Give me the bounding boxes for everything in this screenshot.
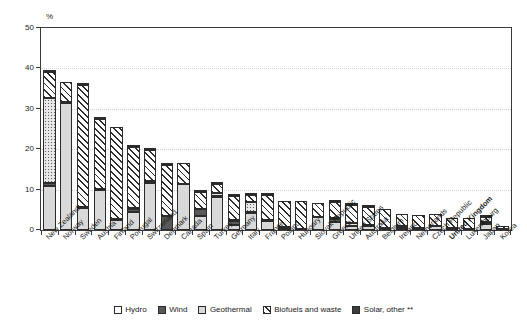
bar-segment: [261, 195, 273, 220]
bar-segment: [245, 193, 257, 195]
bar-slot: [159, 28, 176, 230]
legend-label: Geothermal: [210, 305, 252, 314]
legend-label: Biofuels and waste: [274, 305, 341, 314]
bar-slot: [410, 28, 427, 230]
chart-legend: HydroWindGeothermalBiofuels and wasteSol…: [0, 305, 527, 314]
bar-slot: [142, 28, 159, 230]
y-tick-label-20: 20: [2, 144, 34, 153]
bar-slot: [226, 28, 243, 230]
bar-segment: [228, 194, 240, 196]
bar-slot: [494, 28, 511, 230]
bar-slot: [125, 28, 142, 230]
bar-segment: [194, 192, 206, 209]
x-axis-category-labels: New ZealandNorwaySwedenAustriaFinlandPor…: [0, 233, 527, 297]
y-axis: 01020304050: [0, 27, 40, 231]
dark-square-swatch: [158, 306, 166, 314]
bar-segment: [228, 196, 240, 221]
bars-layer: [41, 28, 511, 230]
y-tick-label-10: 10: [2, 184, 34, 193]
y-tick-label-50: 50: [2, 23, 34, 32]
bar-segment: [127, 209, 139, 213]
legend-label: Solar, other **: [364, 305, 413, 314]
bar-segment: [245, 202, 257, 212]
bar-segment: [211, 193, 223, 196]
bar-slot: [209, 28, 226, 230]
bar-segment: [161, 163, 173, 165]
y-axis-unit-label: %: [46, 12, 53, 21]
bar-segment: [177, 163, 189, 184]
bar-segment: [77, 83, 89, 85]
renewables-share-stacked-bar-chart: % 01020304050 New ZealandNorwaySwedenAus…: [0, 0, 527, 329]
bar-slot: [192, 28, 209, 230]
y-tick-label-30: 30: [2, 103, 34, 112]
cropped-header-remnant: [0, 0, 527, 12]
bar-segment: [94, 119, 106, 189]
bar-segment: [211, 182, 223, 184]
bar-segment: [245, 195, 257, 202]
bar-segment: [94, 117, 106, 119]
bar-slot: [360, 28, 377, 230]
legend-item-hydro[interactable]: Hydro: [114, 305, 147, 314]
legend-item-biofuels-and-waste[interactable]: Biofuels and waste: [263, 305, 342, 314]
bar-slot: [108, 28, 125, 230]
bar-segment: [329, 200, 341, 202]
light-grey-square-swatch: [198, 306, 206, 314]
legend-label: Wind: [169, 305, 187, 314]
bar-slot: [326, 28, 343, 230]
y-tick-label-40: 40: [2, 63, 34, 72]
bar-segment: [261, 193, 273, 195]
bar-segment: [362, 205, 374, 207]
bar-slot: [310, 28, 327, 230]
bar-segment: [194, 190, 206, 192]
bar-segment: [127, 147, 139, 208]
legend-item-solar-other-[interactable]: Solar, other **: [352, 305, 413, 314]
bar-segment: [110, 127, 122, 219]
bar-slot: [91, 28, 108, 230]
bar-segment: [194, 209, 206, 216]
bar-segment: [211, 184, 223, 194]
bar-slot: [427, 28, 444, 230]
bar-segment: [43, 70, 55, 72]
bar-segment: [43, 183, 55, 186]
bar-segment: [144, 148, 156, 150]
bar-segment: [43, 98, 55, 182]
bar-slot: [259, 28, 276, 230]
bar-slot: [276, 28, 293, 230]
bar-slot: [377, 28, 394, 230]
open-square-swatch: [114, 306, 122, 314]
bar-segment: [312, 203, 324, 217]
bar-slot: [175, 28, 192, 230]
bar-segment: [60, 82, 72, 102]
hatched-square-swatch: [263, 306, 271, 314]
bar-slot: [444, 28, 461, 230]
legend-label: Hydro: [125, 305, 146, 314]
bar-segment: [127, 145, 139, 147]
bar-slot: [75, 28, 92, 230]
bar-segment: [43, 72, 55, 99]
bar-slot: [41, 28, 58, 230]
dark-square-swatch: [352, 306, 360, 314]
bar-segment: [77, 85, 89, 207]
bar-slot: [293, 28, 310, 230]
bar-slot: [58, 28, 75, 230]
bar-slot: [394, 28, 411, 230]
legend-item-wind[interactable]: Wind: [158, 305, 188, 314]
bar-segment: [144, 150, 156, 182]
legend-item-geothermal[interactable]: Geothermal: [198, 305, 251, 314]
bar-slot: [242, 28, 259, 230]
